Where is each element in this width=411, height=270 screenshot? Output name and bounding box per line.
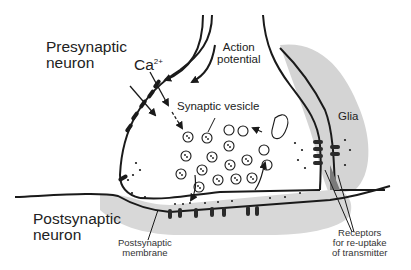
action-potential-label: Action potential bbox=[217, 41, 260, 65]
synaptic-vesicles bbox=[176, 132, 257, 192]
presynaptic-neuron-label: Presynaptic neuron bbox=[46, 39, 127, 72]
synapse-diagram: Presynaptic neuron Ca2+ Action potential… bbox=[0, 0, 411, 270]
postsynaptic-membrane-label: Postsynaptic membrane bbox=[118, 238, 172, 258]
calcium-ion-label: Ca2+ bbox=[134, 57, 163, 73]
postsynaptic-neuron-label: Postsynaptic neuron bbox=[33, 211, 121, 244]
synaptic-vesicle-label: Synaptic vesicle bbox=[177, 100, 259, 112]
reuptake-receptors-label: Receptors for re-uptake of transmitter bbox=[332, 228, 387, 258]
glia-label: Glia bbox=[338, 110, 358, 122]
